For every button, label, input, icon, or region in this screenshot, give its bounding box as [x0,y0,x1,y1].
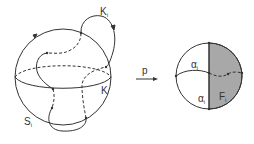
equator-back [15,66,111,77]
sphere-outline [15,29,111,125]
arc-alpha [176,70,209,76]
knot-bottom-loop [49,108,86,131]
map-label: p [142,65,148,76]
arc-bottom-label: αi [198,93,205,105]
knot-left-loop [36,53,53,89]
knot-dashed-1 [47,33,81,53]
equator-front [15,77,111,88]
arc-top-label: αi [191,59,198,71]
knot-arc-top [81,16,115,67]
sphere-label: Si [24,116,32,128]
projected-disk [175,42,243,110]
knot-projection-diagram: Ki K Si p αi αi Fi [0,0,254,144]
equator-label: K [101,85,108,96]
sphere-with-knot [15,16,115,131]
knot-arrow-icon [111,25,115,30]
knot-dashed-2 [52,89,54,108]
arrow-head-icon [153,77,158,81]
knot-label: Ki [100,6,108,18]
map-arrow [136,77,158,81]
